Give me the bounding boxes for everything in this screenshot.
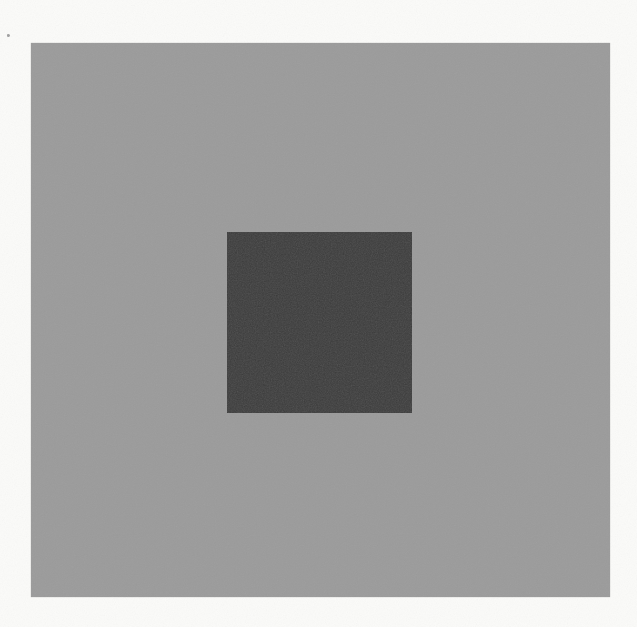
inner-dark-square [227, 232, 412, 413]
page-background [0, 0, 637, 627]
halftone-grain-inner [227, 232, 412, 413]
outer-gray-square [31, 43, 610, 597]
scan-speck [7, 34, 10, 37]
